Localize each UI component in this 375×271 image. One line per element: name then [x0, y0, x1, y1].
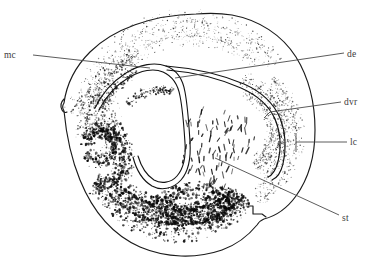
stipple-dot: [125, 154, 126, 155]
stipple-dot: [209, 225, 211, 227]
stipple-dot: [231, 48, 232, 49]
stipple-dot: [270, 149, 271, 150]
stipple-dot: [213, 214, 215, 215]
stipple-dot: [97, 123, 98, 124]
stipple-dot: [140, 215, 141, 216]
stipple-dot: [255, 42, 256, 43]
stipple-dot: [281, 144, 282, 145]
stipple-dot: [258, 96, 259, 97]
stipple-dot: [263, 166, 264, 167]
stipple-dot: [99, 78, 100, 79]
stipple-dot: [285, 183, 286, 184]
stipple-dot: [296, 123, 297, 124]
stipple-dot: [147, 57, 148, 58]
stipple-dot: [281, 128, 282, 129]
stipple-dot: [269, 107, 271, 109]
stipple-dot: [79, 92, 80, 94]
stipple-dot: [278, 168, 279, 169]
stipple-dot: [171, 35, 172, 36]
stipple-dot: [105, 191, 106, 192]
stipple-dot: [168, 37, 169, 38]
stipple-dot: [177, 34, 178, 35]
stipple-dot: [136, 54, 138, 55]
stipple-dot: [283, 174, 284, 175]
stipple-dot: [273, 161, 274, 162]
stipple-dot: [118, 173, 119, 174]
stipple-dot: [287, 146, 288, 147]
stipple-dot: [205, 183, 208, 186]
stipple-dot: [239, 42, 240, 43]
stipple-dot: [141, 193, 142, 194]
stipple-dot: [158, 89, 160, 90]
stipple-dot: [285, 151, 286, 152]
stipple-dot: [105, 109, 106, 110]
stipple-dot: [201, 215, 202, 216]
stipple-dot: [264, 173, 265, 174]
stipple-dot: [270, 184, 271, 185]
stipple-dot: [199, 215, 200, 216]
stipple-dot: [139, 37, 140, 38]
stipple-dot: [271, 190, 272, 192]
stipple-dot: [124, 59, 125, 60]
stipple-dot: [269, 152, 270, 153]
stipple-dot: [145, 219, 147, 221]
stipple-dot: [120, 56, 121, 57]
stipple-dot: [142, 29, 143, 30]
stipple-dot: [116, 160, 117, 161]
stipple-dot: [114, 159, 116, 160]
stipple-dot: [283, 102, 284, 103]
stipple-dot: [128, 195, 129, 197]
stipple-dot: [128, 60, 129, 61]
stipple-dot: [117, 103, 118, 104]
stipple-dot: [107, 138, 109, 139]
stipple-dot: [259, 110, 260, 111]
stipple-dot: [226, 41, 227, 42]
stipple-dot: [135, 207, 138, 209]
stipple-dot: [115, 138, 116, 139]
stipple-dot: [104, 155, 105, 156]
stipple-dot: [84, 157, 87, 160]
stipple-dot: [97, 96, 98, 97]
stipple-dot: [257, 39, 258, 40]
stipple-dot: [98, 58, 99, 60]
stipple-dot: [92, 114, 93, 115]
stipple-dot: [276, 146, 277, 147]
stipple-dot: [194, 22, 196, 23]
stipple-dot: [197, 33, 198, 35]
stipple-dot: [123, 76, 125, 77]
stipple-dot: [98, 119, 99, 120]
stipple-dot: [95, 97, 96, 98]
stipple-dot: [148, 232, 151, 235]
stipple-dot: [156, 226, 158, 228]
stipple-dot: [81, 89, 82, 90]
stipple-dot: [281, 154, 282, 155]
stipple-dot: [271, 129, 273, 130]
stipple-dot: [132, 105, 133, 107]
stipple-dot: [198, 194, 200, 196]
stipple-dot: [268, 147, 269, 148]
stipple-dot: [106, 180, 109, 183]
stipple-dot: [92, 115, 93, 116]
stipple-dot: [229, 188, 231, 190]
stipple-dot: [121, 153, 122, 154]
stipple-dot: [269, 142, 270, 143]
stipple-dot: [134, 72, 136, 74]
stipple-dot: [182, 213, 183, 214]
brain-section-diagram: mc de dvr lc st: [0, 0, 375, 271]
stipple-dot: [254, 59, 255, 60]
stipple-dot: [111, 137, 113, 138]
stipple-dot: [134, 43, 135, 44]
stipple-dot: [132, 36, 133, 37]
stipple-dot: [101, 137, 104, 140]
stipple-dot: [145, 92, 146, 93]
stipple-dot: [114, 153, 116, 155]
stipple-dot: [269, 88, 270, 89]
stipple-dot: [86, 97, 87, 98]
stipple-dot: [206, 40, 207, 41]
stipple-dot: [141, 212, 142, 213]
stipple-dot: [201, 12, 202, 13]
stipple-dot: [235, 23, 236, 24]
stipple-dot: [100, 187, 101, 188]
stipple-dot: [77, 125, 78, 126]
stipple-dot: [154, 233, 155, 235]
